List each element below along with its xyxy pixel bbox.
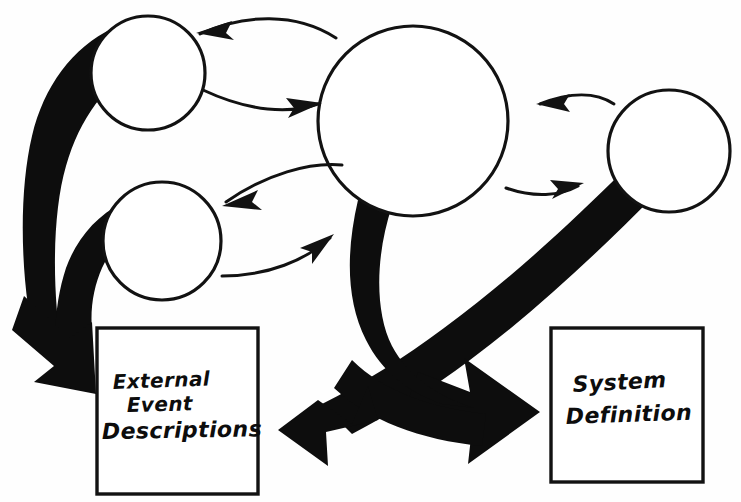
center-to-top-left-arrow[interactable] (196, 19, 336, 40)
bottom-left-to-center-arrow[interactable] (222, 234, 334, 276)
top-left-to-center-arrow[interactable] (203, 90, 322, 118)
system-box-line-2: Definition (565, 400, 692, 429)
bottom-left-circle[interactable] (103, 182, 221, 300)
right-circle-shape (608, 90, 730, 212)
external-box-line-3: Descriptions (102, 416, 263, 444)
external-event-descriptions-box[interactable]: External Event Descriptions (97, 328, 262, 494)
external-box-line-1: External (112, 367, 211, 394)
bottom-left-circle-shape (103, 182, 221, 300)
diagram-canvas: External Event Descriptions System Defin… (0, 0, 741, 502)
external-box-line-2: Event (127, 391, 195, 417)
right-to-center-arrow[interactable] (536, 94, 614, 112)
center-to-right-arrow[interactable] (506, 180, 584, 199)
right-to-center-arrowhead (536, 94, 570, 112)
center-circle[interactable] (318, 26, 508, 216)
system-box-line-1: System (572, 367, 667, 397)
center-circle-shape (318, 26, 508, 216)
right-circle[interactable] (608, 90, 730, 212)
system-definition-box[interactable]: System Definition (551, 328, 703, 482)
center-to-bottom-left-arrow[interactable] (222, 165, 342, 210)
center-to-top-left-arrowhead (196, 21, 234, 40)
center-to-bottom-left-line (226, 165, 342, 202)
top-left-circle[interactable] (91, 16, 205, 130)
top-left-circle-shape (91, 16, 205, 130)
center-to-right-arrowhead (550, 180, 584, 199)
bottom-left-to-center-arrowhead (300, 234, 334, 264)
diagram-svg: External Event Descriptions System Defin… (0, 0, 741, 502)
